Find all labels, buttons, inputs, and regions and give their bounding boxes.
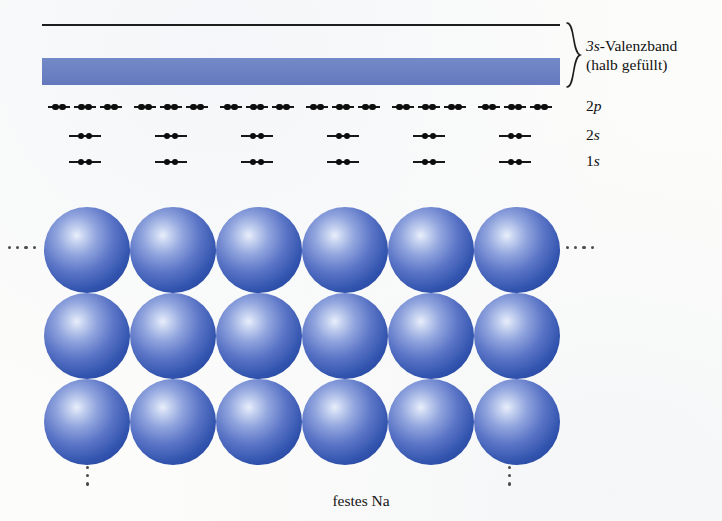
atom-sphere xyxy=(474,207,560,293)
orbital-1s xyxy=(499,153,531,171)
orbital-2s xyxy=(241,127,273,145)
orbital-2p xyxy=(134,98,156,116)
electron-dot xyxy=(171,104,177,110)
orbital-2s xyxy=(155,127,187,145)
level-label-1s: 1s xyxy=(586,152,600,170)
orbital-1s xyxy=(155,153,187,171)
electron-dot xyxy=(430,133,436,139)
level-label-1s-orbital: s xyxy=(594,152,600,169)
electron-dot xyxy=(343,104,349,110)
level-2p-atom-1 xyxy=(42,98,128,116)
orbital-1s xyxy=(327,153,359,171)
electron-dot xyxy=(283,104,289,110)
atom-sphere xyxy=(388,293,474,379)
level-1s-atom-6 xyxy=(472,153,558,171)
figure-caption: festes Na xyxy=(0,492,722,510)
level-1s-atom-5 xyxy=(386,153,472,171)
orbital-1s xyxy=(413,153,445,171)
electron-dot xyxy=(276,104,282,110)
electron-dot xyxy=(515,104,521,110)
level-row-2p xyxy=(42,98,560,116)
level-2p-atom-3 xyxy=(214,98,300,116)
level-2p-atom-2 xyxy=(128,98,214,116)
orbital-2p xyxy=(444,98,466,116)
electron-dot xyxy=(145,104,151,110)
electron-dot xyxy=(489,104,495,110)
orbital-2s xyxy=(499,127,531,145)
electron-dot xyxy=(508,104,514,110)
electron-dot xyxy=(396,104,402,110)
level-2s-atom-6 xyxy=(472,127,558,145)
electron-dot xyxy=(104,104,110,110)
orbital-2p xyxy=(504,98,526,116)
band-top-boundary-line xyxy=(42,24,560,26)
level-label-2p-orbital: p xyxy=(594,97,602,114)
orbital-2p xyxy=(332,98,354,116)
electron-dot xyxy=(258,159,264,165)
level-label-2s-orbital: s xyxy=(594,126,600,143)
valence-band-label-line2: (halb gefüllt) xyxy=(586,55,667,74)
orbital-2s xyxy=(413,127,445,145)
electron-dot xyxy=(52,104,58,110)
orbital-symbol-3s: 3s xyxy=(586,37,600,54)
electron-dot xyxy=(422,133,428,139)
level-2s-atom-2 xyxy=(128,127,214,145)
atom-sphere xyxy=(216,207,302,293)
electron-dot xyxy=(455,104,461,110)
level-2p-atom-6 xyxy=(472,98,558,116)
orbital-2p xyxy=(478,98,500,116)
level-row-1s xyxy=(42,153,560,171)
electron-dot xyxy=(231,104,237,110)
electron-dot xyxy=(482,104,488,110)
electron-dot xyxy=(190,104,196,110)
orbital-2p xyxy=(392,98,414,116)
atom-sphere xyxy=(302,293,388,379)
level-row-2s xyxy=(42,127,560,145)
electron-dot xyxy=(164,159,170,165)
atom-sphere xyxy=(474,293,560,379)
electron-dot xyxy=(164,133,170,139)
electron-dot xyxy=(172,133,178,139)
atom-sphere xyxy=(130,379,216,465)
electron-dot xyxy=(172,159,178,165)
orbital-2p xyxy=(74,98,96,116)
atom-sphere xyxy=(388,207,474,293)
atom-sphere xyxy=(130,293,216,379)
electron-dot xyxy=(362,104,368,110)
electron-dot xyxy=(422,104,428,110)
electron-dot xyxy=(508,133,514,139)
horizontal-ellipsis-right-icon xyxy=(566,246,594,249)
atom-sphere xyxy=(216,379,302,465)
level-2s-atom-3 xyxy=(214,127,300,145)
electron-dot xyxy=(336,133,342,139)
electron-dot xyxy=(250,104,256,110)
atom-sphere xyxy=(474,379,560,465)
electron-dot xyxy=(250,159,256,165)
atom-sphere xyxy=(302,207,388,293)
orbital-1s xyxy=(241,153,273,171)
electron-dot xyxy=(534,104,540,110)
valence-band-fill xyxy=(42,58,560,85)
level-2s-atom-4 xyxy=(300,127,386,145)
valence-band-label-rest: -Valenzband xyxy=(600,37,677,54)
band-structure-figure: 3s-Valenzband (halb gefüllt) xyxy=(0,0,722,521)
electron-dot xyxy=(541,104,547,110)
level-label-2p-number: 2 xyxy=(586,97,594,114)
electron-dot xyxy=(344,133,350,139)
orbital-2p xyxy=(306,98,328,116)
vertical-ellipsis-bottom-right-icon xyxy=(508,466,511,486)
orbital-2p xyxy=(220,98,242,116)
level-1s-atom-1 xyxy=(42,153,128,171)
electron-dot xyxy=(508,159,514,165)
level-1s-atom-4 xyxy=(300,153,386,171)
electron-dot xyxy=(164,104,170,110)
level-label-2s-number: 2 xyxy=(586,126,594,143)
orbital-2p xyxy=(160,98,182,116)
orbital-2p xyxy=(358,98,380,116)
electron-dot xyxy=(317,104,323,110)
curly-brace-right-icon xyxy=(566,22,582,88)
electron-dot xyxy=(258,133,264,139)
orbital-2p xyxy=(48,98,70,116)
electron-dot xyxy=(250,133,256,139)
level-2p-atom-4 xyxy=(300,98,386,116)
